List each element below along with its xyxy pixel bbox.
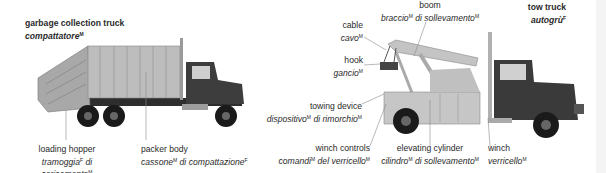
garbage-truck-title: garbage collection truck compattatoreM (25, 18, 124, 41)
tow-truck-title-en: tow truck (528, 2, 566, 13)
label-cable: cable cavoM (341, 20, 363, 43)
label-winch: winch verricelloM (488, 143, 527, 166)
label-loading-hopper: loading hopper tramoggiaF di caricamento… (32, 144, 102, 173)
tow-truck-title: tow truck autogrùF (528, 2, 566, 25)
garbage-truck-title-it: compattatoreM (25, 29, 124, 42)
label-elevating-cylinder: elevating cylinder cilindroM di sollevam… (380, 143, 480, 166)
label-towing-device: towing device dispositivoM di rimorchioM (267, 101, 362, 124)
tow-truck-title-it: autogrùF (528, 13, 566, 26)
label-hook: hook gancioM (334, 55, 364, 78)
label-winch-controls: winch controls comandiM del verricelloM (279, 143, 370, 166)
garbage-truck-illustration (38, 38, 244, 127)
page-edge (596, 0, 606, 173)
label-packer-body: packer body cassoneM di compattazioneF (141, 144, 248, 167)
label-boom: boom braccioM di sollevamentoM (378, 0, 482, 23)
garbage-truck-title-en: garbage collection truck (25, 18, 124, 29)
tow-truck-illustration (380, 32, 584, 138)
